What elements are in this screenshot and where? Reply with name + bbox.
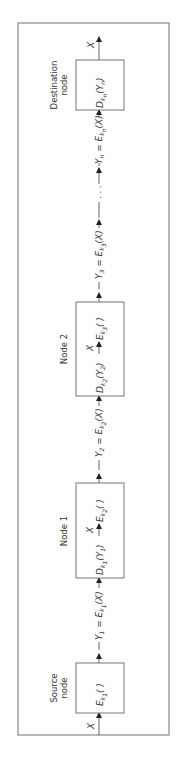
destination-node-title-2: node <box>59 74 69 95</box>
linkn-label: Yn = Ekn(X) <box>94 115 107 164</box>
source-node-title-2: node <box>59 677 69 698</box>
link-node2-next: Y3 = Ek3(X) <box>94 220 107 302</box>
destination-node-title: Destination <box>49 61 59 110</box>
node1-mid-label: X <box>85 526 95 534</box>
destination-node: Destination node Dkn(Yn) <box>49 60 124 110</box>
input-label: X <box>86 722 96 730</box>
node1-title: Node 1 <box>59 516 69 546</box>
encryption-chain-diagram: X Source node Ek1( ) Y1 = Ek1(X) Node 1 <box>0 0 177 762</box>
source-node: Source node Ek1( ) <box>49 663 124 713</box>
link-to-destination: Yn = Ekn(X) <box>94 110 107 166</box>
source-node-title: Source <box>49 673 59 702</box>
link-node1-node2: Y2 = Ek2(X) <box>94 396 107 483</box>
link3-label: Y3 = Ek3(X) <box>94 230 107 279</box>
ellipsis: . . . <box>93 185 103 199</box>
node-1: Node 1 Dk1(Y1) X Ek2( ) <box>59 483 124 578</box>
link2-label: Y2 = Ek2(X) <box>94 408 107 457</box>
node2-title: Node 2 <box>59 334 69 364</box>
output-label: X <box>86 41 96 49</box>
node2-mid-label: X <box>85 344 95 352</box>
node-2: Node 2 Dk2(Y2) X Ek3( ) <box>59 302 124 396</box>
link-source-node1: Y1 = Ek1(X) <box>94 578 107 663</box>
ellipsis-segment: . . . <box>93 168 103 218</box>
link1-label: Y1 = Ek1(X) <box>94 591 107 640</box>
